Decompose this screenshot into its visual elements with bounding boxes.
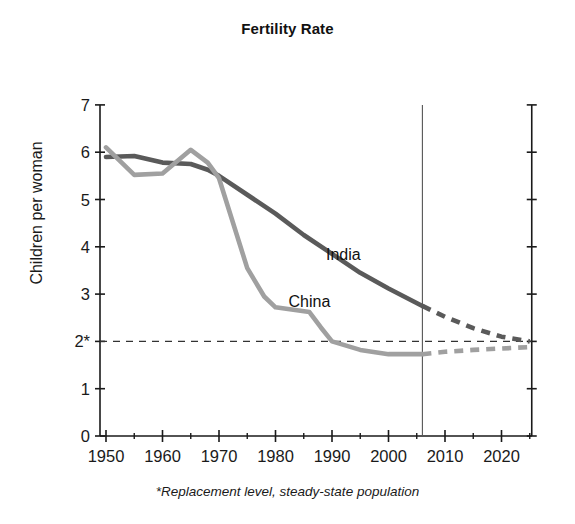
x-tick-label: 2000 bbox=[370, 447, 407, 465]
series-label-china: China bbox=[288, 293, 330, 310]
y-tick-label: 4 bbox=[81, 238, 90, 256]
y-tick-label: 5 bbox=[81, 191, 90, 209]
series-line-historical bbox=[106, 156, 422, 306]
y-tick-label: 3 bbox=[81, 285, 90, 303]
x-tick-label: 2020 bbox=[483, 447, 520, 465]
y-tick-label: 7 bbox=[81, 96, 90, 114]
x-tick-label: 1960 bbox=[144, 447, 181, 465]
y-tick-label: 1 bbox=[81, 380, 90, 398]
series-line-projection bbox=[422, 347, 529, 354]
chart-footnote: *Replacement level, steady-state populat… bbox=[0, 484, 575, 499]
series-label-india: India bbox=[326, 246, 361, 263]
series-china: China bbox=[106, 147, 530, 354]
plot-area: 012*345671950196019701980199020002010202… bbox=[0, 0, 575, 524]
fertility-rate-chart: Fertility Rate Children per woman 012*34… bbox=[0, 0, 575, 524]
series-line-projection bbox=[422, 306, 529, 341]
y-axis-left: 012*34567 bbox=[74, 96, 105, 445]
x-tick-label: 1980 bbox=[257, 447, 294, 465]
series-line-historical bbox=[106, 147, 422, 354]
series-india: India bbox=[106, 156, 530, 341]
x-tick-label: 1970 bbox=[201, 447, 238, 465]
x-axis: 19501960197019801990200020102020 bbox=[88, 430, 532, 465]
x-tick-label: 1990 bbox=[314, 447, 351, 465]
x-tick-label: 1950 bbox=[88, 447, 125, 465]
y-axis-right bbox=[527, 105, 537, 436]
y-tick-label: 2* bbox=[74, 332, 90, 350]
x-tick-label: 2010 bbox=[427, 447, 464, 465]
y-tick-label: 0 bbox=[81, 427, 90, 445]
y-tick-label: 6 bbox=[81, 143, 90, 161]
